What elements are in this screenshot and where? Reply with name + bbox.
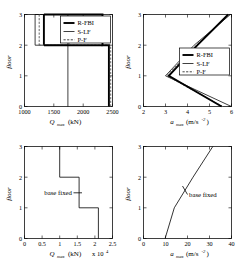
xtick-label: 4 [186, 108, 189, 115]
svg-text:(m/s: (m/s [186, 250, 199, 258]
xtick-label: 1 [58, 240, 61, 247]
ytick-label: 1 [19, 72, 22, 79]
xtick-label: 20 [184, 240, 190, 247]
svg-text:max: max [57, 254, 65, 259]
xtick-label: 2500 [106, 108, 118, 115]
panel-top-left-yaxis-label: floor [5, 55, 13, 69]
xtick-label: 2 [142, 108, 145, 115]
legend-label-s-lf: S-LF [78, 28, 92, 35]
panel-bottom-left-exponent: x 10 4 [92, 249, 109, 258]
svg-text:): ) [207, 118, 210, 126]
ytick-label: 1 [19, 204, 22, 211]
legend-label-p-f: P-F [197, 68, 207, 75]
svg-text:4: 4 [106, 249, 109, 254]
ytick-label: 3 [138, 143, 141, 150]
ytick-label: 3 [19, 143, 22, 150]
xtick-label: 0.5 [38, 240, 46, 247]
panel-bottom-right-frame [144, 147, 232, 239]
svg-text:max: max [176, 122, 184, 127]
legend-label-s-lf: S-LF [197, 60, 211, 67]
svg-text:x 10: x 10 [92, 250, 104, 257]
svg-text:(m/s: (m/s [186, 118, 199, 126]
ytick-label: 2 [19, 42, 22, 49]
svg-text:-2: -2 [202, 249, 207, 254]
panel-top-left: 0 1 2 3 1000 1500 2000 2500 Q max (kN) f… [5, 11, 119, 127]
annotation-label: base fixed [189, 191, 217, 198]
xtick-label: 2000 [77, 108, 89, 115]
legend-label-r-fbi: R-FBI [78, 19, 94, 26]
annotation-base-fixed: base fixed [44, 189, 82, 196]
panel-bottom-right-yticks [144, 147, 232, 239]
xtick-label: 2.5 [109, 240, 117, 247]
ytick-label: 0 [19, 235, 22, 242]
ytick-label: 0 [138, 103, 141, 110]
ytick-label: 2 [138, 174, 141, 181]
panel-bottom-right-xaxis-label: a max (m/s -2 ) [170, 249, 209, 260]
ytick-label: 1 [138, 204, 141, 211]
xtick-label: 5 [208, 108, 211, 115]
svg-text:Q: Q [49, 118, 54, 126]
svg-text:Q: Q [49, 250, 54, 258]
ytick-label: 0 [138, 235, 141, 242]
panel-bottom-left: 0 1 2 3 0 0.5 1 1.5 2 2.5 Q max (kN) [5, 143, 116, 259]
panel-bottom-left-yaxis-label: floor [5, 187, 13, 201]
legend-top-left: R-FBI S-LF P-F [61, 16, 111, 43]
annotation-label: base fixed [44, 189, 72, 196]
panel-top-right-xaxis-label: a max (m/s -2 ) [170, 117, 209, 128]
panel-top-right: 0 1 2 3 2 3 4 5 6 a max (m/s -2 ) floor [124, 11, 233, 127]
legend-label-r-fbi: R-FBI [197, 51, 213, 58]
annotation-base-fixed: base fixed [183, 186, 218, 198]
svg-text:max: max [57, 122, 65, 127]
svg-text:(kN): (kN) [68, 118, 82, 126]
xtick-label: 10 [162, 240, 168, 247]
legend-top-right: R-FBI S-LF P-F [180, 48, 230, 75]
panel-bottom-left-xaxis-label: Q max (kN) [49, 250, 81, 259]
svg-text:-2: -2 [202, 117, 207, 122]
panel-top-left-xaxis-label: Q max (kN) [49, 118, 81, 127]
xtick-label: 30 [206, 240, 212, 247]
figure-container: 0 1 2 3 1000 1500 2000 2500 Q max (kN) f… [0, 0, 239, 265]
ytick-label: 3 [138, 11, 141, 18]
panel-bottom-right: 0 1 2 3 0 10 20 30 40 a max (m/s -2 ) fl… [124, 143, 235, 259]
ytick-label: 2 [138, 42, 141, 49]
panel-bottom-right-yaxis-label: floor [124, 187, 132, 201]
ytick-label: 2 [19, 174, 22, 181]
xtick-label: 1000 [18, 108, 30, 115]
xtick-label: 3 [164, 108, 167, 115]
svg-text:): ) [207, 250, 210, 258]
xtick-label: 0 [142, 240, 145, 247]
ytick-label: 3 [19, 11, 22, 18]
svg-text:a: a [170, 118, 174, 126]
svg-text:max: max [176, 254, 184, 259]
xtick-label: 6 [230, 108, 233, 115]
legend-label-p-f: P-F [78, 36, 88, 43]
xtick-label: 1.5 [73, 240, 81, 247]
panel-top-right-yaxis-label: floor [124, 55, 132, 69]
svg-text:(kN): (kN) [68, 250, 82, 258]
xtick-label: 0 [23, 240, 26, 247]
xtick-label: 1500 [48, 108, 60, 115]
ytick-label: 1 [138, 72, 141, 79]
xtick-label: 40 [228, 240, 234, 247]
xtick-label: 2 [93, 240, 96, 247]
svg-text:a: a [170, 250, 174, 258]
panel-bottom-right-xticks [144, 147, 232, 239]
